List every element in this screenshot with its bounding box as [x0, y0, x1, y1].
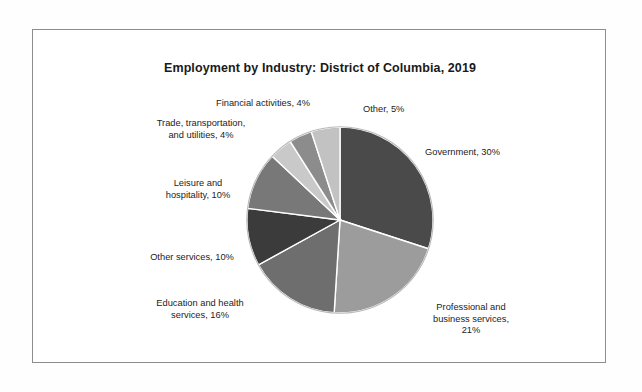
chart-title: Employment by Industry: District of Colu… — [33, 61, 607, 75]
pie-label-other: Other, 5% — [363, 104, 483, 116]
chart-frame: Employment by Industry: District of Colu… — [32, 29, 606, 363]
page-canvas: Employment by Industry: District of Colu… — [0, 0, 642, 392]
pie-chart-svg — [245, 126, 435, 316]
pie-label-professional-business-services: Professional and business services, 21% — [397, 302, 545, 337]
pie-label-trade-transportation-utilities: Trade, transportation, and utilities, 4% — [129, 118, 273, 141]
pie-slice-group — [247, 127, 433, 313]
pie-label-education-health-services: Education and health services, 16% — [111, 298, 289, 321]
pie-label-leisure-hospitality: Leisure and hospitality, 10% — [123, 178, 273, 201]
pie-chart — [245, 126, 435, 316]
pie-label-financial-activities: Financial activities, 4% — [183, 98, 343, 110]
pie-label-government: Government, 30% — [425, 147, 585, 159]
pie-label-other-services: Other services, 10% — [111, 252, 273, 264]
